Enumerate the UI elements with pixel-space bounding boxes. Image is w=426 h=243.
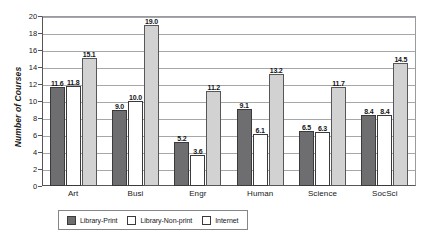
bar[interactable]: 6.5 [299,131,314,186]
bar-slot: 9.1 [237,16,252,186]
bar[interactable]: 11.8 [66,86,81,186]
bar-group: 5.23.611.2 [167,16,229,186]
x-axis-category-label: Art [42,189,104,198]
bar-value-label: 8.4 [380,108,389,115]
bar[interactable]: 14.5 [393,63,408,186]
bar-slot: 8.4 [377,16,392,186]
x-axis-category-label: Engr [167,189,229,198]
bar-chart: Number of Courses 02468101214161820 11.6… [0,0,426,243]
y-axis-tick-mark [38,186,42,187]
y-axis-tick-label: 10 [17,97,37,106]
bar-slot: 8.4 [361,16,376,186]
y-axis-tick-label: 0 [17,182,37,191]
legend-label: Library-Non-print [140,217,192,224]
bar-slot: 14.5 [393,16,408,186]
y-axis-tick-label: 4 [17,148,37,157]
bar-value-label: 11.6 [51,80,63,87]
bar-value-label: 8.4 [364,108,373,115]
bar[interactable]: 9.1 [237,109,252,186]
bar-slot: 6.1 [253,16,268,186]
bar-slot: 10.0 [128,16,143,186]
bar-slot: 11.8 [66,16,81,186]
bar-slot: 5.2 [174,16,189,186]
x-axis-category-label: Busi [104,189,166,198]
y-axis-tick-label: 16 [17,46,37,55]
y-axis-tick-label: 14 [17,63,37,72]
bar-value-label: 13.2 [270,67,283,74]
y-axis-tick-label: 6 [17,131,37,140]
legend-item[interactable]: Library-Non-print [127,216,192,225]
bar-slot: 19.0 [144,16,159,186]
bar[interactable]: 11.2 [206,91,221,186]
bar-value-label: 5.2 [177,135,186,142]
x-axis-category-label: Human [229,189,291,198]
bar-slot: 15.1 [82,16,97,186]
legend-swatch-icon [67,216,76,225]
y-axis-tick-label: 2 [17,165,37,174]
bar-value-label: 6.3 [318,125,327,132]
bar-value-label: 15.1 [83,51,96,58]
bar[interactable]: 6.1 [253,134,268,186]
bar[interactable]: 8.4 [377,115,392,186]
chart-legend: Library-PrintLibrary-Non-printInternet [58,210,248,230]
bar[interactable]: 11.6 [50,87,65,186]
bar-value-label: 11.2 [208,84,220,91]
bar[interactable]: 19.0 [144,25,159,187]
bar-group: 8.48.414.5 [354,16,416,186]
bar[interactable]: 3.6 [190,155,205,186]
y-axis-tick-label: 8 [17,114,37,123]
bar-slot: 11.2 [206,16,221,186]
bar-group: 9.010.019.0 [104,16,166,186]
bar-value-label: 9.0 [115,103,124,110]
bar-slot: 11.7 [331,16,346,186]
x-axis-category-label: SocSci [354,189,416,198]
bar-slot: 13.2 [269,16,284,186]
bar-slot: 3.6 [190,16,205,186]
bar-value-label: 11.8 [67,79,79,86]
x-axis-category-label: Science [291,189,353,198]
y-axis-tick-label: 20 [17,12,37,21]
bar-group: 9.16.113.2 [229,16,291,186]
bar-value-label: 10.0 [129,94,142,101]
legend-item[interactable]: Library-Print [67,216,117,225]
bar[interactable]: 11.7 [331,87,346,186]
bar[interactable]: 5.2 [174,142,189,186]
y-axis-tick-label: 12 [17,80,37,89]
legend-swatch-icon [202,216,211,225]
legend-label: Internet [215,217,238,224]
bar[interactable]: 10.0 [128,101,143,186]
bar-slot: 6.5 [299,16,314,186]
bar-value-label: 6.1 [256,127,265,134]
bar-value-label: 14.5 [394,56,407,63]
bar-value-label: 11.7 [332,80,344,87]
bar-value-label: 19.0 [145,18,158,25]
bar-group: 11.611.815.1 [42,16,104,186]
bar[interactable]: 15.1 [82,58,97,186]
bar-groups: 11.611.815.19.010.019.05.23.611.29.16.11… [42,16,416,186]
legend-item[interactable]: Internet [202,216,238,225]
legend-swatch-icon [127,216,136,225]
legend-label: Library-Print [80,217,117,224]
bar[interactable]: 6.3 [315,132,330,186]
bar-value-label: 9.1 [240,102,249,109]
y-axis-tick-label: 18 [17,29,37,38]
bar[interactable]: 8.4 [361,115,376,186]
bar-slot: 9.0 [112,16,127,186]
bar-value-label: 6.5 [302,124,311,131]
bar[interactable]: 13.2 [269,74,284,186]
bar-slot: 11.6 [50,16,65,186]
x-axis-category-labels: ArtBusiEngrHumanScienceSocSci [42,189,416,198]
bar-value-label: 3.6 [193,148,202,155]
bar[interactable]: 9.0 [112,110,127,187]
bar-group: 6.56.311.7 [291,16,353,186]
bar-slot: 6.3 [315,16,330,186]
